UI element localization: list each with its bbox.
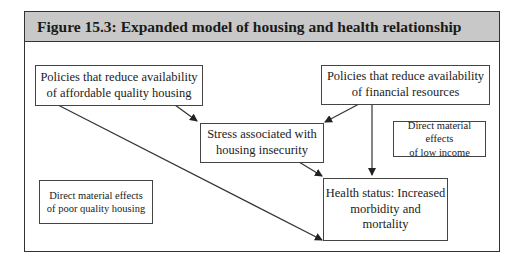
edge-financial-to-stress	[325, 104, 359, 122]
node-text-line: of poor quality housing	[47, 202, 145, 215]
node-direct-low-income: Direct material effects of low income	[393, 121, 486, 157]
node-text-line: mortality	[326, 217, 445, 233]
node-text-line: housing insecurity	[207, 143, 317, 159]
node-text-line: Stress associated with	[207, 127, 317, 143]
node-text-line: Policies that reduce availability	[40, 70, 197, 86]
node-direct-poor-housing: Direct material effects of poor quality …	[39, 180, 153, 224]
node-text-line: of affordable quality housing	[40, 86, 197, 102]
node-text-line: of low income	[394, 146, 485, 159]
node-stress: Stress associated with housing insecurit…	[200, 123, 324, 163]
node-text-line: morbidity and	[326, 202, 445, 218]
node-health-status: Health status: Increased morbidity and m…	[323, 178, 448, 241]
node-policies-housing: Policies that reduce availability of aff…	[35, 65, 203, 106]
node-text-line: Direct material effects	[394, 119, 485, 145]
edge-stress-to-health	[299, 162, 322, 176]
node-policies-financial: Policies that reduce availability of fin…	[321, 65, 490, 105]
node-text-line: of financial resources	[327, 85, 484, 101]
node-text-line: Health status: Increased	[326, 186, 445, 202]
node-text-line: Direct material effects	[47, 189, 145, 202]
edge-housing-to-stress	[175, 105, 197, 121]
node-text-line: Policies that reduce availability	[327, 69, 484, 85]
